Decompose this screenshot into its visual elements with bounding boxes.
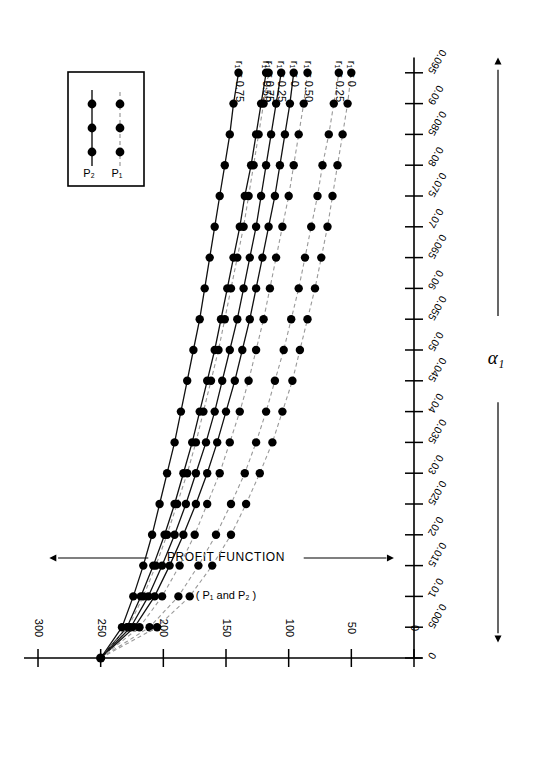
data-point-6-2 (174, 592, 182, 600)
data-point-6-5 (227, 500, 235, 508)
legend-marker-0-0 (116, 148, 125, 157)
data-point-2-8 (199, 407, 207, 415)
data-point-7-7 (268, 438, 276, 446)
alpha-tick-label-16: 0.08 (426, 145, 447, 169)
data-point-0-2 (129, 592, 137, 600)
data-point-3-14 (252, 223, 260, 231)
data-point-0-16 (221, 161, 229, 169)
data-point-4-15 (271, 192, 279, 200)
data-point-0-4 (148, 531, 156, 539)
value-axis-title: PROFIT FUNCTION (167, 550, 285, 564)
alpha-tick-label-14: 0.07 (426, 207, 447, 231)
data-point-4-4 (179, 531, 187, 539)
alpha-tick-label-8: 0.04 (426, 392, 447, 416)
profit-arrowhead-left (49, 555, 56, 562)
profit-arrowhead-right (387, 555, 394, 562)
legend-label-1: P₂ (83, 167, 95, 179)
profit-function-chart: 00.0050.010.0150.020.0250.030.0350.040.0… (0, 0, 534, 774)
data-point-7-3 (208, 561, 216, 569)
data-point-0-6 (163, 469, 171, 477)
data-point-6-16 (318, 161, 326, 169)
data-point-5-12 (266, 284, 274, 292)
curve-label-0: r₁ = 0.75 (234, 61, 246, 102)
alpha-tick-label-1: 0.005 (426, 602, 450, 631)
data-point-2-7 (192, 438, 200, 446)
data-point-2-10 (214, 346, 222, 354)
data-point-6-6 (241, 469, 249, 477)
data-point-7-11 (303, 315, 311, 323)
curve-label-6: r₁ = 0.25 (334, 61, 346, 102)
data-point-2-15 (244, 192, 252, 200)
data-point-3-12 (239, 284, 247, 292)
alpha-tick-label-9: 0.045 (426, 356, 450, 385)
data-point-4-14 (264, 223, 272, 231)
rotated-figure-canvas: 00.0050.010.0150.020.0250.030.0350.040.0… (0, 0, 534, 774)
legend-marker-1-2 (88, 100, 97, 109)
alpha-arrowhead-lower (495, 636, 502, 643)
data-point-6-9 (271, 377, 279, 385)
data-point-0-13 (206, 253, 214, 261)
alpha-tick-label-3: 0.015 (426, 540, 450, 569)
data-point-2-11 (221, 315, 229, 323)
data-point-6-12 (295, 284, 303, 292)
data-point-3-4 (170, 531, 178, 539)
data-point-3-11 (233, 315, 241, 323)
data-point-3-6 (192, 469, 200, 477)
data-point-3-10 (226, 346, 234, 354)
convergence-point (96, 653, 105, 662)
value-tick-label-1: 50 (346, 622, 358, 634)
data-point-0-9 (183, 377, 191, 385)
data-point-3-5 (182, 500, 190, 508)
data-point-2-13 (233, 253, 241, 261)
data-point-2-17 (254, 130, 262, 138)
legend-marker-1-1 (88, 124, 97, 133)
data-point-4-10 (238, 346, 246, 354)
alpha-tick-label-18: 0.09 (426, 84, 447, 108)
data-point-4-3 (165, 561, 173, 569)
data-point-5-8 (236, 407, 244, 415)
alpha-tick-label-13: 0.065 (426, 232, 450, 261)
data-point-7-10 (296, 346, 304, 354)
data-point-3-15 (257, 192, 265, 200)
alpha-tick-label-11: 0.055 (426, 294, 450, 323)
data-point-6-15 (313, 192, 321, 200)
data-point-7-14 (323, 223, 331, 231)
curve-label-7: r₁ = 0 (346, 61, 358, 87)
data-point-5-13 (272, 253, 280, 261)
data-point-7-8 (278, 407, 286, 415)
data-point-5-6 (216, 469, 224, 477)
alpha-tick-label-2: 0.01 (426, 576, 447, 600)
alpha-tick-label-12: 0.06 (426, 268, 447, 292)
data-point-7-12 (311, 284, 319, 292)
data-point-0-15 (216, 192, 224, 200)
legend-label-0: P₁ (111, 167, 122, 179)
data-point-5-4 (191, 531, 199, 539)
data-point-3-9 (218, 377, 226, 385)
value-tick-label-2: 100 (284, 619, 296, 637)
alpha-tick-label-7: 0.035 (426, 417, 450, 446)
data-point-4-17 (281, 130, 289, 138)
data-point-3-3 (158, 561, 166, 569)
alpha-tick-label-10: 0.05 (426, 330, 447, 354)
alpha-tick-label-4: 0.02 (426, 515, 447, 539)
data-point-3-7 (202, 438, 210, 446)
data-point-7-13 (317, 253, 325, 261)
data-point-4-6 (203, 469, 211, 477)
data-point-6-14 (307, 223, 315, 231)
alpha-tick-label-6: 0.03 (426, 453, 447, 477)
data-point-5-3 (175, 561, 183, 569)
alpha-tick-label-5: 0.025 (426, 479, 450, 508)
curve-label-3: r₁ = 0.25 (276, 61, 288, 102)
data-point-5-7 (226, 438, 234, 446)
data-point-6-4 (212, 531, 220, 539)
alpha-axis-title: α₁ (488, 347, 505, 368)
data-point-5-15 (285, 192, 293, 200)
alpha-tick-label-17: 0.085 (426, 109, 450, 138)
legend-box (68, 72, 144, 186)
data-point-6-8 (262, 407, 270, 415)
data-point-3-8 (211, 407, 219, 415)
data-point-7-18 (343, 99, 351, 107)
data-point-0-11 (196, 315, 204, 323)
data-point-6-11 (287, 315, 295, 323)
data-point-6-3 (194, 561, 202, 569)
